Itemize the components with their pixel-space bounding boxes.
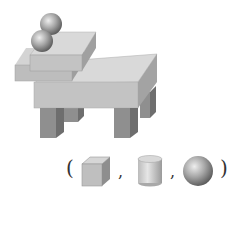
separator: , <box>170 162 175 181</box>
open-paren: ( <box>66 158 74 178</box>
cube-icon[interactable] <box>78 152 114 188</box>
sphere-icon[interactable] <box>180 152 216 188</box>
front-sphere <box>31 30 53 52</box>
cylinder-icon[interactable] <box>132 152 166 188</box>
answer-choices: ( , , ) <box>52 150 232 190</box>
separator: , <box>118 162 123 181</box>
front-left-leg <box>40 108 64 138</box>
close-paren: ) <box>220 158 228 178</box>
front-right-leg <box>114 108 138 138</box>
